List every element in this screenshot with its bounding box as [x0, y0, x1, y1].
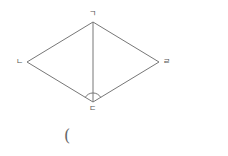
- edge-bottom-right: [93, 62, 159, 102]
- edge-top-left: [27, 22, 93, 62]
- vertex-label-top: ㄱ: [89, 10, 96, 18]
- rhombus-diagram: [0, 0, 228, 156]
- answer-blank-paren: (: [64, 128, 70, 144]
- edge-left-bottom: [27, 62, 93, 102]
- vertex-label-right: ㄹ: [163, 58, 170, 66]
- edge-right-top: [93, 22, 159, 62]
- vertex-label-bottom: ㄷ: [89, 105, 96, 113]
- vertex-label-left: ㄴ: [16, 58, 23, 66]
